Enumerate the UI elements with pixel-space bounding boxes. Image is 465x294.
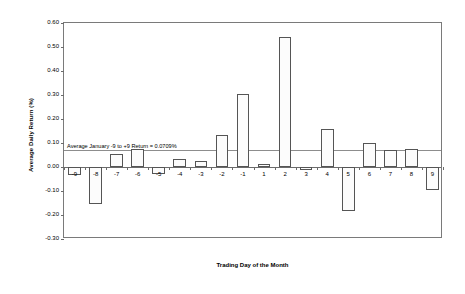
y-axis-tick-label: 0.00 (47, 163, 59, 169)
x-axis-tick-mark (380, 167, 381, 170)
bar (363, 143, 376, 167)
plot-area: 0.600.500.400.300.200.100.00-0.10-0.20-0… (63, 22, 442, 238)
y-axis-tick-label: 0.30 (47, 91, 59, 97)
bar (321, 129, 334, 167)
x-axis-tick-label: 3 (304, 171, 307, 177)
x-axis-tick-mark (296, 167, 297, 170)
x-axis-tick-label: 4 (326, 171, 329, 177)
x-axis-tick-mark (443, 167, 444, 170)
x-axis-tick-label: 5 (347, 171, 350, 177)
x-axis-tick-label: -6 (135, 171, 140, 177)
x-axis-tick-label: 2 (283, 171, 286, 177)
x-axis-tick-mark (254, 167, 255, 170)
x-axis-tick-label: 1 (262, 171, 265, 177)
y-axis-tick-mark (61, 239, 64, 240)
bar (384, 150, 397, 167)
bar (173, 159, 186, 167)
y-axis-tick-mark (61, 215, 64, 216)
bar (300, 167, 313, 170)
x-axis-tick-mark (338, 167, 339, 170)
bar (279, 37, 292, 167)
x-axis-tick-mark (127, 167, 128, 170)
y-axis-tick-mark (61, 143, 64, 144)
x-axis-tick-mark (106, 167, 107, 170)
x-axis-tick-label: 7 (389, 171, 392, 177)
y-axis-tick-mark (61, 95, 64, 96)
y-axis-tick-label: -0.20 (45, 211, 59, 217)
x-axis-tick-label: 9 (431, 171, 434, 177)
y-axis-tick-label: 0.60 (47, 19, 59, 25)
x-axis-tick-mark (401, 167, 402, 170)
x-axis-tick-mark (275, 167, 276, 170)
bar (216, 135, 229, 167)
x-axis-tick-mark (190, 167, 191, 170)
bar (405, 149, 418, 167)
y-axis-tick-label: -0.30 (45, 235, 59, 241)
bar (258, 164, 271, 167)
x-axis-tick-label: -4 (177, 171, 182, 177)
bar (110, 154, 123, 167)
y-axis-tick-mark (61, 47, 64, 48)
x-axis-tick-label: -3 (198, 171, 203, 177)
x-axis-tick-label: -2 (219, 171, 224, 177)
x-axis-tick-mark (232, 167, 233, 170)
x-axis-tick-label: -8 (93, 171, 98, 177)
x-axis-tick-mark (169, 167, 170, 170)
y-axis-tick-mark (61, 191, 64, 192)
x-axis-tick-mark (359, 167, 360, 170)
y-axis-tick-label: 0.40 (47, 67, 59, 73)
average-reference-label: Average January -9 to +9 Return = 0.0709… (66, 143, 178, 149)
y-axis-tick-label: -0.10 (45, 187, 59, 193)
x-axis-tick-label: 8 (410, 171, 413, 177)
chart-root: Average Daily Return (%) 0.600.500.400.3… (0, 0, 465, 294)
x-axis-tick-mark (211, 167, 212, 170)
y-axis-tick-label: 0.20 (47, 115, 59, 121)
y-axis-title: Average Daily Return (%) (28, 60, 34, 210)
y-axis-tick-mark (61, 23, 64, 24)
x-axis-title: Trading Day of the Month (63, 262, 442, 268)
bar (237, 94, 250, 167)
x-axis-tick-mark (422, 167, 423, 170)
y-axis-tick-label: 0.50 (47, 43, 59, 49)
x-axis-tick-mark (148, 167, 149, 170)
bar (131, 149, 144, 167)
y-axis-tick-mark (61, 119, 64, 120)
y-axis-tick-mark (61, 71, 64, 72)
y-axis-tick-label: 0.10 (47, 139, 59, 145)
x-axis-tick-mark (85, 167, 86, 170)
x-axis-tick-mark (64, 167, 65, 170)
x-axis-tick-label: -9 (72, 171, 77, 177)
x-axis-tick-label: -7 (114, 171, 119, 177)
x-axis-tick-label: -5 (156, 171, 161, 177)
zero-baseline (64, 167, 441, 168)
x-axis-tick-label: 6 (368, 171, 371, 177)
x-axis-tick-label: -1 (240, 171, 245, 177)
bar (195, 161, 208, 167)
x-axis-tick-mark (317, 167, 318, 170)
